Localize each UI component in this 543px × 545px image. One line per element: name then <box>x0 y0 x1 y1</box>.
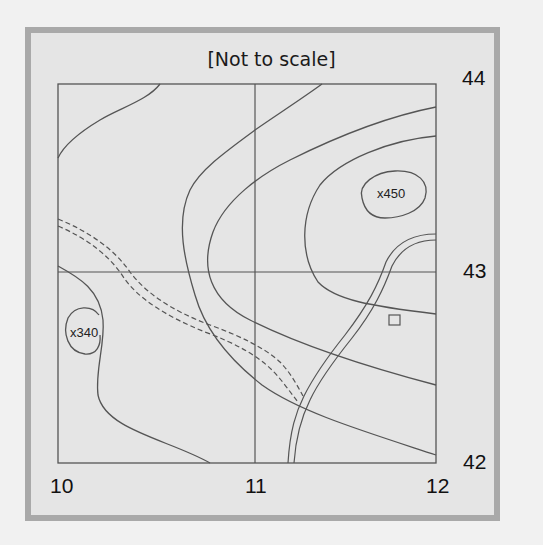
x-label-11: 11 <box>245 474 267 498</box>
contour-5 <box>58 266 210 463</box>
contour-lines <box>58 84 436 463</box>
building-square <box>389 315 400 325</box>
contour-4 <box>305 136 436 314</box>
contour-3 <box>208 107 436 385</box>
x-label-12: 12 <box>426 474 449 498</box>
spot-height-450: x450 <box>377 186 405 201</box>
map-border <box>58 84 436 463</box>
y-label-43: 43 <box>463 259 486 283</box>
y-label-44: 44 <box>462 66 485 90</box>
x-label-10: 10 <box>50 474 73 498</box>
y-label-42: 42 <box>463 450 486 474</box>
contour-1 <box>58 84 160 158</box>
contour-2 <box>182 84 436 455</box>
spot-height-340: x340 <box>70 325 98 340</box>
